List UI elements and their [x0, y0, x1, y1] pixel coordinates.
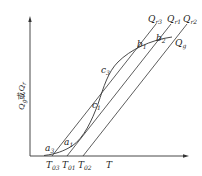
- point-a3: a3: [45, 143, 54, 154]
- tick-t02: T02: [78, 160, 92, 171]
- tick-t03: T03: [46, 160, 60, 171]
- label-qr1: Qr1: [167, 14, 181, 25]
- x-axis-arrow-icon: [183, 154, 189, 157]
- heat-removal-lines: [52, 24, 187, 156]
- label-qr2: Qr2: [183, 14, 197, 25]
- point-a1: a1: [64, 137, 73, 148]
- y-axis-label: Qg或Qr: [16, 81, 28, 110]
- line-qr2: [83, 24, 187, 156]
- point-b2: b2: [156, 33, 166, 44]
- line-qr1: [67, 24, 171, 156]
- label-qg: Qg: [175, 38, 186, 50]
- y-axis-arrow-icon: [28, 16, 31, 22]
- diagram-canvas: Qr3 Qr1 Qr2 Qg b1 b2 c3 c1 a3 a1 T03 T01…: [0, 0, 202, 176]
- label-qr3: Qr3: [148, 14, 162, 25]
- x-axis-label: T: [106, 160, 113, 170]
- point-c3: c3: [101, 65, 110, 76]
- point-c1: c1: [92, 100, 101, 111]
- tick-t01: T01: [62, 160, 76, 171]
- point-b1: b1: [137, 39, 147, 50]
